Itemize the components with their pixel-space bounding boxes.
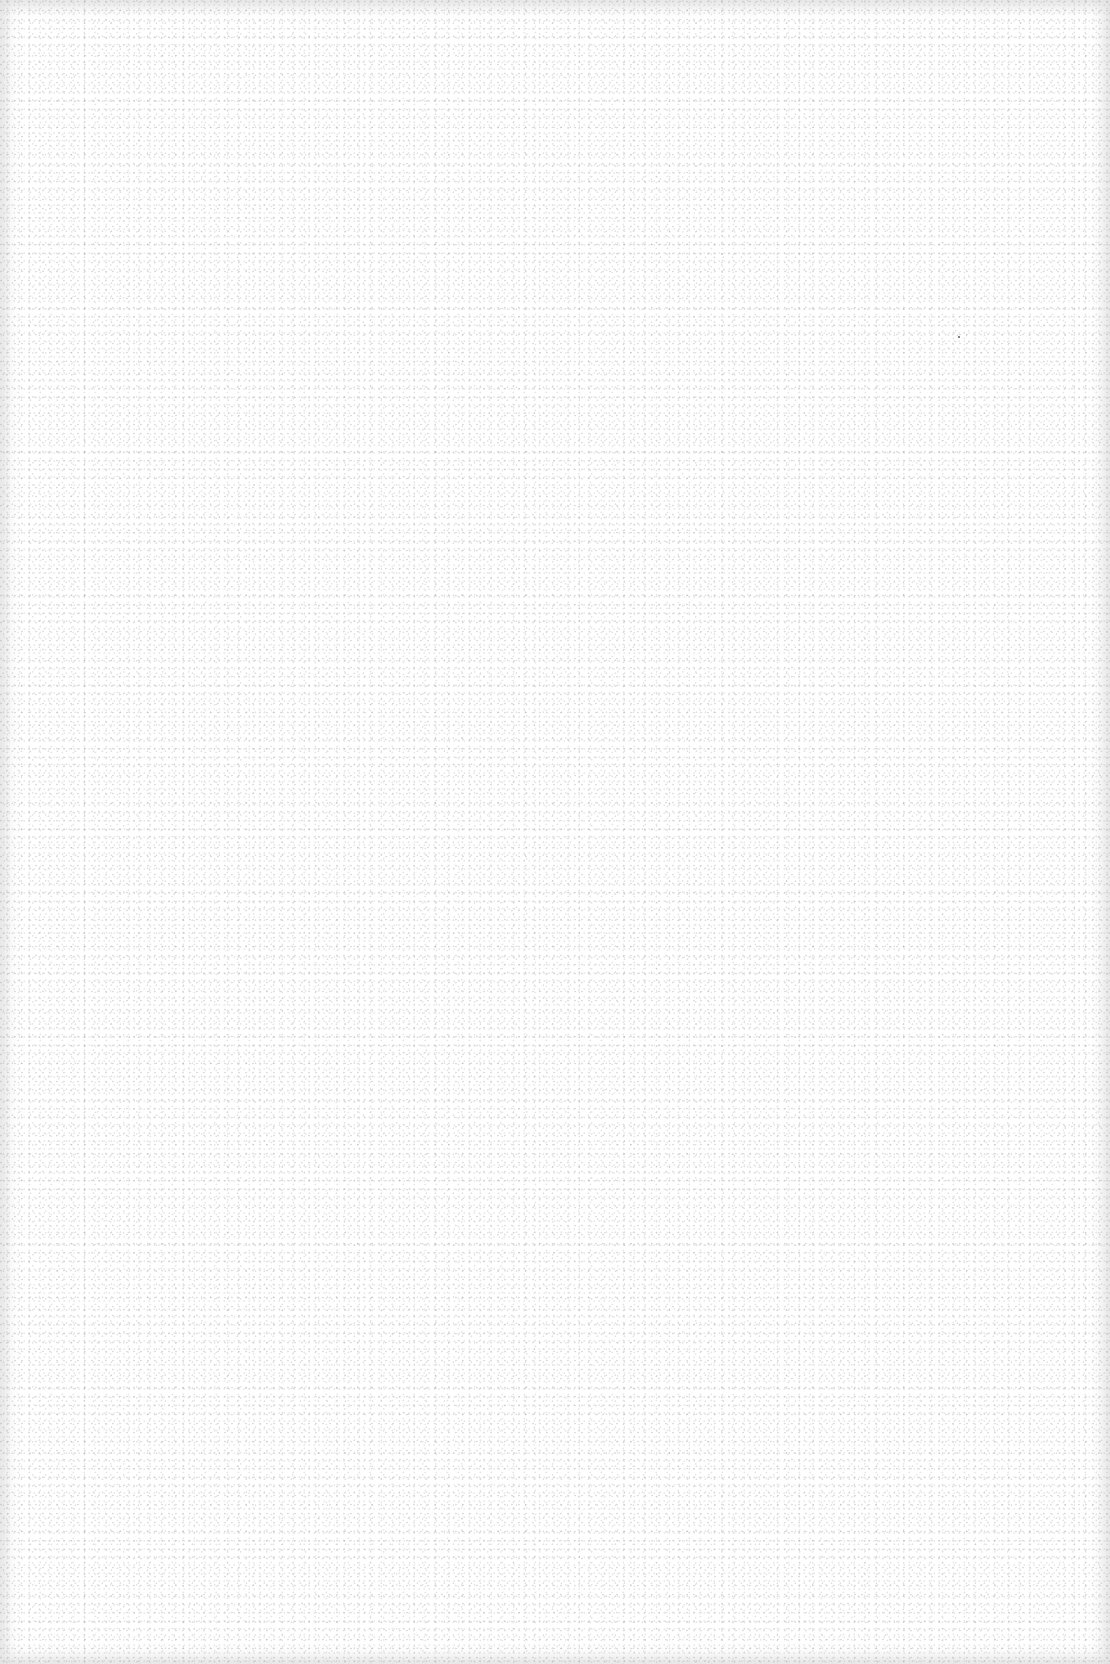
scanned-page bbox=[0, 0, 1110, 1664]
page-body bbox=[40, 40, 1070, 1624]
